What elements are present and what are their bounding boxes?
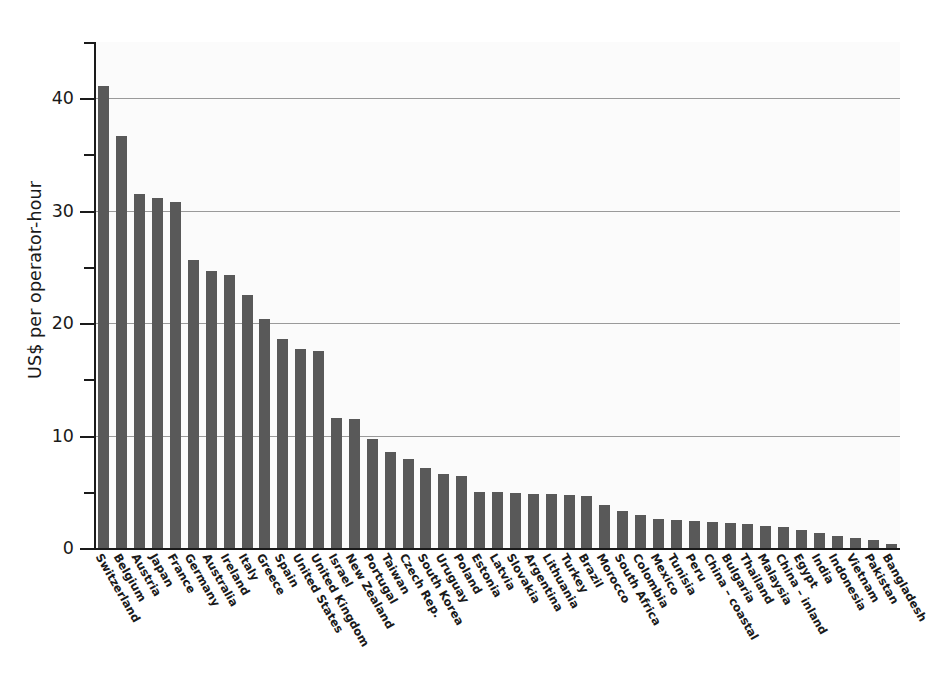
bar (206, 271, 217, 548)
y-tick-major (80, 548, 95, 550)
y-axis-ticks: 010203040 (0, 0, 74, 674)
y-tick-major (80, 211, 95, 213)
x-axis-category-labels: SwitzerlandBelgiumAustriaJapanFranceGerm… (95, 552, 900, 674)
bar (617, 511, 628, 548)
bar (778, 527, 789, 548)
y-tick-label: 0 (4, 538, 74, 558)
bar (224, 275, 235, 548)
bar (474, 492, 485, 548)
y-tick-label: 10 (4, 426, 74, 446)
bar (331, 418, 342, 548)
bar (242, 295, 253, 548)
bar (98, 86, 109, 548)
y-tick-major (80, 436, 95, 438)
bar (456, 476, 467, 548)
bar (581, 496, 592, 548)
y-tick-major (80, 98, 95, 100)
y-tick-label: 20 (4, 313, 74, 333)
bar (188, 260, 199, 548)
bar (403, 459, 414, 548)
y-tick-label: 30 (4, 201, 74, 221)
bar (707, 522, 718, 548)
bar (385, 452, 396, 548)
bar (420, 468, 431, 548)
bar (671, 520, 682, 548)
bar (599, 505, 610, 548)
bar (349, 419, 360, 548)
y-tick-minor (84, 154, 95, 156)
y-tick-major (80, 323, 95, 325)
bar (313, 351, 324, 548)
bar (725, 523, 736, 548)
bar (850, 538, 861, 548)
bar (528, 494, 539, 548)
bar (438, 474, 449, 548)
bar (277, 339, 288, 548)
bar (832, 536, 843, 548)
y-tick-label: 40 (4, 88, 74, 108)
y-axis-line (94, 42, 96, 549)
bar (814, 533, 825, 548)
bar (170, 202, 181, 548)
bar (868, 540, 879, 548)
bar (152, 198, 163, 548)
x-axis-line (94, 548, 900, 550)
bar (367, 439, 378, 548)
bar (295, 349, 306, 548)
bar (796, 530, 807, 548)
bar (653, 519, 664, 548)
bar (546, 494, 557, 548)
y-tick-minor (84, 379, 95, 381)
bar (134, 194, 145, 548)
bar (116, 136, 127, 548)
bar (742, 524, 753, 548)
bar (492, 492, 503, 548)
y-tick-minor (84, 267, 95, 269)
bar (564, 495, 575, 548)
y-tick-minor (84, 492, 95, 494)
bar (635, 515, 646, 548)
bar (689, 521, 700, 548)
bar (760, 526, 771, 548)
bar (510, 493, 521, 548)
plot-area (95, 42, 900, 548)
bar (259, 319, 270, 548)
y-tick-minor (84, 42, 95, 44)
bar-chart: US$ per operator-hour 010203040 Switzerl… (0, 0, 940, 674)
bars-layer (95, 42, 900, 548)
